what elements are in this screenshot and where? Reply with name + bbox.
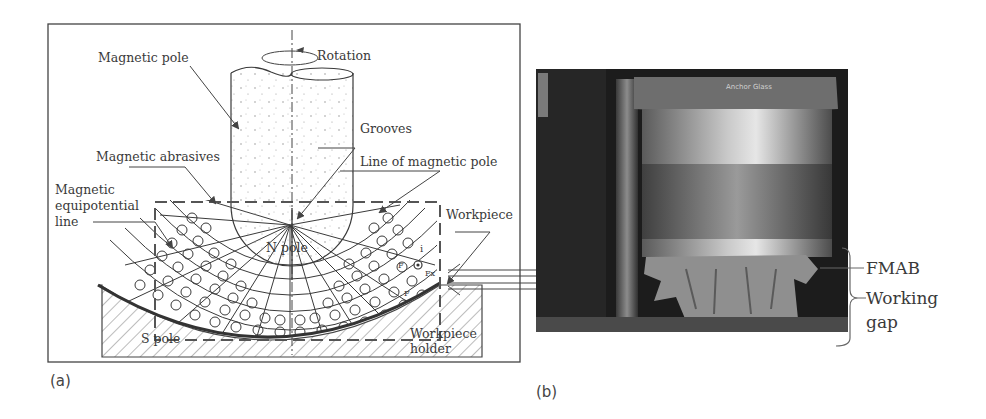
label-force-fx: Fx [425, 269, 436, 278]
label-equipotential-3: line [55, 214, 78, 229]
pole-bottom-ring [642, 239, 832, 257]
label-force-i: i [420, 243, 423, 254]
force-vector-marker [414, 261, 422, 269]
label-s-pole: S pole [141, 331, 180, 346]
photo-label: Anchor Glass [726, 83, 772, 91]
panel-b-annotations: FMAB Working gap [820, 240, 986, 350]
label-magnetic-pole: Magnetic pole [98, 50, 189, 65]
panel-b-letter: (b) [536, 383, 557, 401]
threaded-rod [616, 79, 638, 319]
label-magnetic-abrasives: Magnetic abrasives [96, 149, 220, 164]
label-workpiece: Workpiece [446, 207, 513, 222]
label-force-fy: F [404, 289, 410, 298]
pole-upper-band [642, 109, 832, 164]
label-workpiece-holder-2: holder [410, 341, 451, 356]
label-workpiece-holder-1: Workpiece [410, 326, 477, 341]
label-grooves: Grooves [360, 121, 412, 136]
label-n-pole: N pole [266, 240, 308, 255]
label-equipotential-2: equipotential [55, 198, 139, 213]
label-fmab: FMAB [866, 258, 920, 278]
label-working-gap-1: Working [866, 288, 938, 308]
label-line-of-magnetic-pole: Line of magnetic pole [360, 154, 498, 169]
pole-middle [642, 164, 832, 239]
panel-b-photo: Anchor Glass [536, 69, 848, 332]
label-force-f: F [398, 261, 404, 270]
working-gap-brace [836, 248, 858, 346]
label-equipotential-1: Magnetic [55, 182, 115, 197]
label-working-gap-2: gap [866, 312, 898, 332]
rotation-arrow-icon [262, 47, 318, 65]
label-rotation: Rotation [317, 48, 371, 63]
panel-a-letter: (a) [50, 372, 71, 390]
